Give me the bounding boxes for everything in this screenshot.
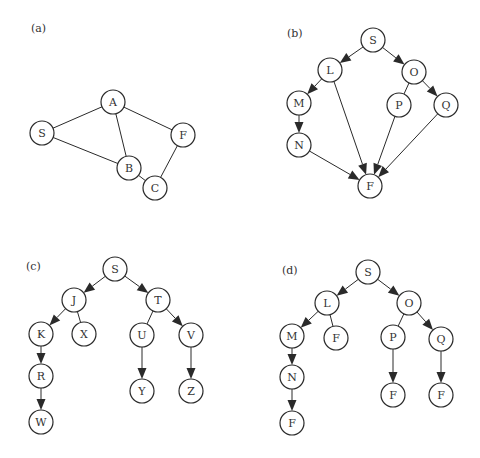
panel-label: (c): [26, 260, 41, 273]
node-label: O: [404, 297, 413, 310]
directed-edge: [309, 151, 359, 180]
arrowhead-icon: [37, 399, 46, 410]
node-f4: F: [280, 411, 304, 435]
node-s: S: [361, 28, 385, 52]
node-l: L: [318, 58, 342, 82]
node-o: O: [402, 60, 426, 84]
node-label: Y: [137, 385, 146, 398]
node-f: F: [358, 174, 382, 198]
directed-edge: [288, 389, 297, 411]
edge: [404, 83, 409, 94]
node-f: F: [171, 123, 195, 147]
arrowhead-icon: [288, 354, 297, 365]
node-label: Q: [436, 333, 445, 346]
node-f1: F: [324, 326, 348, 350]
node-c: C: [143, 176, 167, 200]
node-label: S: [369, 34, 377, 47]
edge: [398, 314, 404, 326]
arrowhead-icon: [437, 372, 446, 383]
directed-edge: [37, 346, 46, 364]
panel-d: (d)SLOMFPQNFFF: [280, 260, 453, 435]
panel-label: (a): [31, 22, 46, 35]
node-f2: F: [381, 383, 405, 407]
node-label: M: [286, 330, 297, 343]
arrowhead-icon: [187, 368, 196, 379]
node-y: Y: [130, 379, 154, 403]
arrowhead-icon: [37, 353, 46, 364]
node-f3: F: [429, 383, 453, 407]
node-label: N: [287, 371, 297, 384]
node-q: Q: [434, 93, 458, 117]
node-o: O: [397, 291, 421, 315]
directed-edge: [422, 81, 437, 97]
directed-edge: [378, 279, 400, 296]
arrowhead-icon: [348, 171, 360, 180]
node-label: O: [409, 66, 418, 79]
node-b: B: [117, 156, 141, 180]
arrowhead-icon: [358, 163, 367, 175]
node-label: S: [38, 127, 46, 140]
node-m: M: [287, 91, 311, 115]
node-u: U: [130, 323, 154, 347]
directed-edge: [389, 349, 398, 383]
edge: [139, 175, 146, 180]
node-t: T: [146, 288, 170, 312]
directed-edge: [340, 47, 363, 63]
arrowhead-icon: [393, 54, 404, 64]
directed-edge: [138, 347, 147, 379]
arrowhead-icon: [340, 53, 352, 63]
panel-b: (b)SLOMPQNF: [287, 27, 458, 198]
directed-edge: [417, 312, 433, 330]
node-label: F: [288, 417, 296, 430]
node-l: L: [315, 291, 339, 315]
directed-edge: [382, 47, 404, 64]
node-n: N: [287, 133, 311, 157]
node-s: S: [356, 260, 380, 284]
node-label: S: [111, 263, 119, 276]
directed-edge: [37, 388, 46, 410]
edge: [53, 137, 118, 163]
node-label: L: [323, 297, 331, 310]
node-label: R: [37, 370, 46, 383]
edge: [330, 315, 333, 327]
node-label: F: [179, 129, 187, 142]
node-w: W: [29, 410, 53, 434]
arrowhead-icon: [137, 283, 149, 293]
node-s: S: [30, 121, 54, 145]
edge: [161, 146, 178, 178]
directed-edge: [295, 115, 304, 133]
node-label: A: [108, 96, 118, 109]
arrowhead-icon: [138, 368, 147, 379]
node-label: F: [437, 389, 445, 402]
node-label: F: [389, 389, 397, 402]
directed-edge: [288, 348, 297, 365]
edges: [53, 107, 177, 181]
arrowhead-icon: [389, 372, 398, 383]
edge: [124, 107, 172, 130]
node-n: N: [280, 365, 304, 389]
directed-edge: [125, 276, 149, 293]
node-label: K: [37, 328, 46, 341]
node-label: W: [35, 416, 47, 429]
node-v: V: [179, 323, 203, 347]
node-p: P: [381, 325, 405, 349]
edge: [116, 114, 126, 157]
directed-edge: [49, 309, 65, 326]
node-label: Q: [441, 99, 450, 112]
node-label: B: [125, 162, 133, 175]
directed-edge: [437, 351, 446, 383]
node-label: L: [326, 64, 334, 77]
node-label: J: [71, 294, 76, 307]
arrowhead-icon: [84, 283, 96, 293]
edge: [77, 312, 80, 323]
node-label: F: [366, 180, 374, 193]
node-label: P: [395, 99, 403, 112]
directed-edge: [187, 347, 196, 379]
node-r: R: [29, 364, 53, 388]
node-k: K: [29, 322, 53, 346]
node-s: S: [103, 257, 127, 281]
node-label: T: [154, 294, 162, 307]
directed-edge: [307, 79, 322, 95]
directed-edge: [374, 116, 395, 174]
panel-a: (a)SAFBC: [30, 22, 195, 200]
